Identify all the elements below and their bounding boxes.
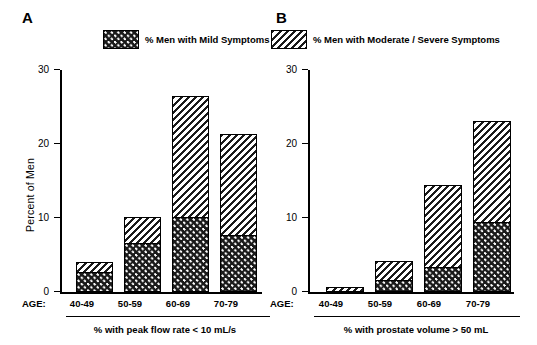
- legend-panel-b: % Men with Moderate / Severe Symptoms: [271, 30, 500, 49]
- bar-b-50-59-mild: [375, 281, 413, 292]
- x-tick-label-b-1: 50-59: [354, 298, 406, 309]
- y-tick-20-a: [54, 143, 60, 144]
- bar-b-50-59[interactable]: [375, 261, 413, 292]
- bar-a-60-69-moderate-severe: [172, 96, 209, 218]
- x-tick-label-b-0: 40-49: [305, 298, 357, 309]
- x-axis-line-b: [308, 292, 514, 294]
- y-tick-20-b: [302, 143, 308, 144]
- bar-a-70-79-moderate-severe: [220, 134, 257, 236]
- bar-b-50-59-moderate-severe: [375, 261, 413, 281]
- y-tick-10-a: [54, 217, 60, 218]
- x-tick-label-a-1: 50-59: [104, 298, 156, 309]
- y-tick-label-10-a: 10: [19, 213, 49, 223]
- y-tick-10-b: [302, 217, 308, 218]
- bar-a-40-49[interactable]: [76, 262, 113, 292]
- bar-b-70-79-mild: [473, 223, 511, 292]
- caption-rule-b: [314, 316, 520, 317]
- bar-a-50-59-moderate-severe: [124, 217, 161, 244]
- plot-area-b: 0 10 20 30: [310, 70, 506, 292]
- bar-a-60-69-mild: [172, 218, 209, 292]
- x-tick-label-a-0: 40-49: [56, 298, 108, 309]
- bar-b-40-49[interactable]: [326, 287, 364, 292]
- bars-b: [310, 70, 506, 292]
- panel-b: B % Men with Moderate / Severe Symptoms …: [266, 0, 537, 345]
- legend-panel-a: % Men with Mild Symptoms: [103, 30, 270, 49]
- bar-a-70-79-mild: [220, 236, 257, 292]
- panel-b-letter: B: [276, 10, 287, 25]
- y-tick-30-a: [54, 69, 60, 70]
- bar-b-70-79[interactable]: [473, 121, 511, 292]
- bar-b-60-69-mild: [424, 268, 462, 292]
- bar-a-50-59[interactable]: [124, 217, 161, 292]
- x-tick-label-a-3: 70-79: [200, 298, 252, 309]
- caption-b: % with prostate volume > 50 mL: [291, 324, 537, 335]
- panel-a: A % Men with Mild Symptoms Percent of Me…: [0, 0, 270, 345]
- caption-rule-a: [66, 316, 270, 317]
- bar-b-70-79-moderate-severe: [473, 121, 511, 223]
- bar-a-60-69[interactable]: [172, 96, 209, 292]
- y-tick-0-b: [302, 291, 308, 292]
- bar-a-70-79[interactable]: [220, 134, 257, 292]
- bar-a-40-49-mild: [76, 273, 113, 292]
- panel-a-letter: A: [22, 10, 33, 25]
- bar-b-40-49-moderate-severe: [326, 287, 364, 292]
- legend-swatch-mild-icon: [103, 30, 139, 49]
- y-tick-30-b: [302, 69, 308, 70]
- y-tick-label-20-a: 20: [19, 139, 49, 149]
- legend-label-moderate-severe: % Men with Moderate / Severe Symptoms: [313, 35, 500, 45]
- legend-label-mild: % Men with Mild Symptoms: [145, 35, 270, 45]
- bar-a-50-59-mild: [124, 244, 161, 292]
- y-tick-0-a: [54, 291, 60, 292]
- bar-b-60-69[interactable]: [424, 185, 462, 292]
- y-tick-label-0-b: 0: [267, 287, 297, 297]
- x-axis-line-a: [60, 292, 262, 294]
- y-tick-label-10-b: 10: [267, 213, 297, 223]
- age-tag-b: AGE:: [270, 298, 294, 309]
- caption-a: % with peak flow rate < 10 mL/s: [40, 324, 290, 335]
- x-tick-label-b-3: 70-79: [452, 298, 504, 309]
- bar-a-40-49-moderate-severe: [76, 262, 113, 272]
- y-tick-label-30-a: 30: [19, 65, 49, 75]
- age-tag-a: AGE:: [22, 298, 46, 309]
- bars-a: [62, 70, 254, 292]
- x-tick-label-a-2: 60-69: [152, 298, 204, 309]
- y-tick-label-20-b: 20: [267, 139, 297, 149]
- bar-b-60-69-moderate-severe: [424, 185, 462, 269]
- y-tick-label-30-b: 30: [267, 65, 297, 75]
- y-tick-label-0-a: 0: [19, 287, 49, 297]
- legend-swatch-moderate-severe-icon: [271, 30, 307, 49]
- plot-area-a: 0 10 20 30: [62, 70, 254, 292]
- x-tick-label-b-2: 60-69: [403, 298, 455, 309]
